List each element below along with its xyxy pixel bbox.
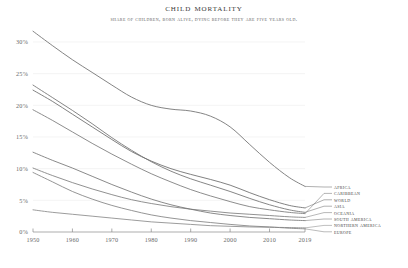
legend-leader-line: [305, 200, 332, 208]
series-line: [33, 152, 305, 220]
series-line: [33, 210, 305, 228]
legend-item-oceania[interactable]: Oceania: [334, 210, 354, 216]
y-tick-label: 30%: [16, 38, 28, 45]
legend-item-caribbean[interactable]: Caribbean: [334, 190, 360, 196]
x-tick-label: 1960: [66, 236, 79, 243]
gridlines-group: [33, 42, 305, 200]
series-line: [33, 31, 305, 186]
legend: AfricaCaribbeanWorldAsiaOceaniaSouth Ame…: [334, 184, 381, 235]
legend-leader-line: [305, 229, 332, 232]
x-axis: [33, 229, 305, 233]
legend-leader-line: [305, 225, 332, 227]
chart-container: Child Mortality Share of children, born …: [0, 0, 408, 268]
x-tick-label: 2000: [224, 236, 237, 243]
y-tick-label: 25%: [16, 70, 28, 77]
series-line: [33, 85, 305, 212]
y-tick-label: 10%: [16, 165, 28, 172]
legend-item-northern-america[interactable]: Northern America: [334, 222, 381, 228]
x-tick-label: 1970: [105, 236, 118, 243]
y-tick-label: 15%: [16, 133, 28, 140]
legend-leader-lines: [305, 186, 332, 231]
x-tick-label: 2019: [298, 236, 311, 243]
y-axis-tick-labels: 0%5%10%15%20%25%30%: [16, 38, 28, 235]
legend-leader-line: [305, 213, 332, 218]
legend-leader-line: [305, 193, 332, 213]
x-axis-tick-labels: 19501960197019801990200020102019: [26, 236, 311, 243]
series-line: [33, 168, 305, 217]
legend-item-africa[interactable]: Africa: [334, 184, 351, 190]
legend-leader-line: [305, 219, 332, 221]
line-chart-svg: 0%5%10%15%20%25%30% 19501960197019801990…: [0, 0, 408, 268]
y-tick-label: 0%: [19, 228, 28, 235]
y-tick-label: 20%: [16, 102, 28, 109]
series-lines-group: [33, 31, 305, 229]
legend-item-south-america[interactable]: South America: [334, 216, 372, 222]
legend-item-europe[interactable]: Europe: [334, 229, 352, 235]
x-tick-label: 1980: [145, 236, 158, 243]
x-tick-label: 2010: [263, 236, 276, 243]
x-tick-label: 1950: [26, 236, 39, 243]
y-tick-label: 5%: [19, 197, 28, 204]
series-line: [33, 90, 305, 208]
x-tick-label: 1990: [184, 236, 197, 243]
legend-item-world[interactable]: World: [334, 197, 350, 203]
legend-item-asia[interactable]: Asia: [334, 203, 345, 209]
legend-leader-line: [305, 186, 332, 187]
